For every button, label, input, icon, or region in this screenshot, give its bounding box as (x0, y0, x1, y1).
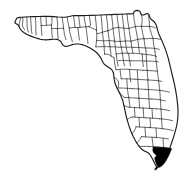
map-canvas (0, 0, 189, 178)
highlighted-county-group[interactable] (153, 147, 172, 170)
highlighted-county-keys-tip[interactable] (155, 167, 158, 170)
state-outline-group (15, 10, 178, 167)
florida-state-outline (15, 10, 178, 167)
florida-county-map: Florida county map Monroe County Florida (0, 0, 189, 178)
